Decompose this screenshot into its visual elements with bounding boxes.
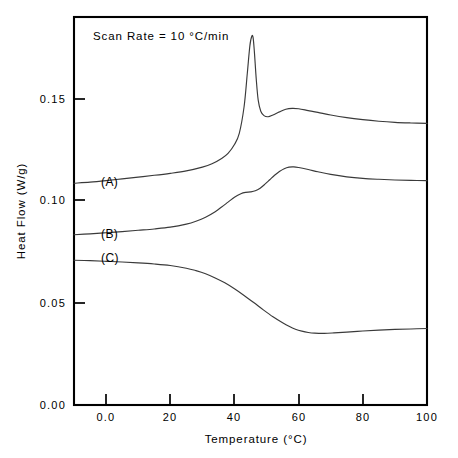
x-tick-label-3: 60	[292, 411, 307, 423]
scan-rate-annotation: Scan Rate = 10 °C/min	[93, 30, 229, 42]
x-axis-ticks	[106, 394, 427, 405]
y-tick-label-1: 0.05	[40, 297, 66, 309]
data-curves	[74, 35, 427, 333]
data-curve-c	[74, 260, 427, 333]
x-tick-label-5: 100	[416, 411, 438, 423]
y-tick-label-3: 0.15	[40, 93, 66, 105]
curve-label-b: (B)	[101, 227, 118, 241]
plot-frame	[74, 17, 427, 405]
x-tick-label-1: 20	[163, 411, 178, 423]
x-tick-label-4: 80	[356, 411, 371, 423]
y-tick-label-0: 0.00	[40, 399, 66, 411]
chart-canvas: 0.15 0.10 0.05 0.00 Heat Flow (W/g) 0.0 …	[0, 0, 458, 458]
dsc-thermogram-figure: 0.15 0.10 0.05 0.00 Heat Flow (W/g) 0.0 …	[0, 0, 458, 458]
curve-label-c: (C)	[101, 251, 119, 265]
data-curve-b	[74, 167, 427, 235]
data-curve-a	[74, 35, 427, 183]
x-tick-label-0: 0.0	[97, 411, 116, 423]
curve-label-a: (A)	[101, 175, 118, 189]
x-tick-label-2: 40	[227, 411, 242, 423]
y-axis-title: Heat Flow (W/g)	[15, 163, 27, 260]
x-axis-title: Temperature (°C)	[205, 433, 308, 445]
y-tick-label-2: 0.10	[40, 194, 66, 206]
y-axis-ticks	[74, 99, 85, 405]
